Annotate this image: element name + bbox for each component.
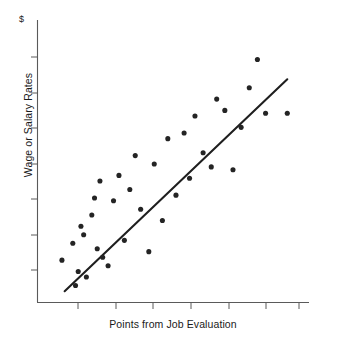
scatter-point: [209, 164, 214, 169]
scatter-point: [84, 275, 89, 280]
scatter-point: [165, 136, 170, 141]
scatter-point: [182, 130, 187, 135]
x-axis-title: Points from Job Evaluation: [37, 318, 309, 331]
scatter-point: [116, 173, 121, 178]
scatter-point: [160, 218, 165, 223]
y-axis-title: Wage or Salary Rates: [21, 5, 35, 245]
scatter-point: [73, 283, 78, 288]
scatter-point: [89, 212, 94, 217]
scatter-point: [146, 249, 151, 254]
scatter-point: [263, 111, 268, 116]
scatter-point: [127, 187, 132, 192]
scatter-point: [285, 111, 290, 116]
scatter-point: [152, 162, 157, 167]
scatter-point: [106, 263, 111, 268]
scatter-point: [201, 150, 206, 155]
scatter-point: [255, 57, 260, 62]
scatter-point: [76, 269, 81, 274]
scatter-point: [122, 238, 127, 243]
scatter-points-layer: [59, 57, 289, 288]
scatter-point: [111, 198, 116, 203]
scatter-point: [192, 114, 197, 119]
scatter-point: [247, 85, 252, 90]
axes-group: [37, 20, 309, 303]
scatter-point: [214, 97, 219, 102]
plot-canvas: [0, 0, 347, 341]
scatter-plot-figure: $ Wage or Salary Rates Points from Job E…: [0, 0, 347, 341]
scatter-point: [100, 255, 105, 260]
trend-line: [65, 79, 288, 291]
scatter-point: [138, 207, 143, 212]
x-axis-ticks: [78, 303, 299, 310]
scatter-point: [222, 108, 227, 113]
scatter-point: [70, 241, 75, 246]
scatter-point: [239, 125, 244, 130]
scatter-point: [92, 195, 97, 200]
scatter-point: [59, 258, 64, 263]
scatter-point: [81, 232, 86, 237]
scatter-point: [187, 176, 192, 181]
scatter-point: [78, 224, 83, 229]
scatter-point: [133, 153, 138, 158]
scatter-point: [173, 193, 178, 198]
scatter-point: [95, 246, 100, 251]
scatter-point: [230, 167, 235, 172]
scatter-point: [97, 178, 102, 183]
